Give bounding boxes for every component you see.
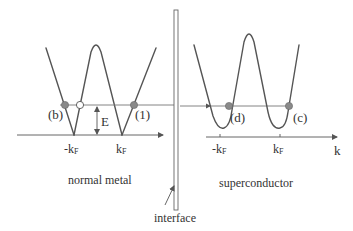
left-pos-kf-label: kF: [116, 142, 127, 156]
interface-label: interface: [154, 211, 196, 225]
interface-pointer: [165, 186, 174, 205]
superconductor-panel: (d) (c) -kF kF k superconductor: [180, 34, 341, 190]
open-circle-dot: [76, 101, 83, 108]
point-1-label: (1): [135, 107, 150, 122]
point-c-dot: [285, 102, 292, 109]
point-c-label: (c): [293, 110, 307, 125]
point-b-label: (b): [48, 107, 63, 122]
ns-interface-diagram: E (b) (1) -kF kF normal metal interface …: [0, 0, 353, 231]
sc-quasiparticle-dispersion: [194, 34, 299, 128]
right-neg-kf-label: -kF: [212, 142, 227, 156]
normal-metal-panel: E (b) (1) -kF kF normal metal: [17, 45, 178, 187]
interface-barrier: [174, 10, 178, 210]
point-d-dot: [225, 102, 232, 109]
normal-metal-label: normal metal: [68, 173, 132, 187]
k-axis-label: k: [334, 143, 341, 158]
superconductor-label: superconductor: [219, 176, 293, 190]
interface: interface: [154, 10, 196, 225]
point-d-label: (d): [230, 110, 245, 125]
right-pos-kf-label: kF: [273, 142, 284, 156]
left-neg-kf-label: -kF: [64, 142, 79, 156]
energy-label: E: [101, 114, 109, 129]
left-hole-branch: [74, 45, 122, 135]
